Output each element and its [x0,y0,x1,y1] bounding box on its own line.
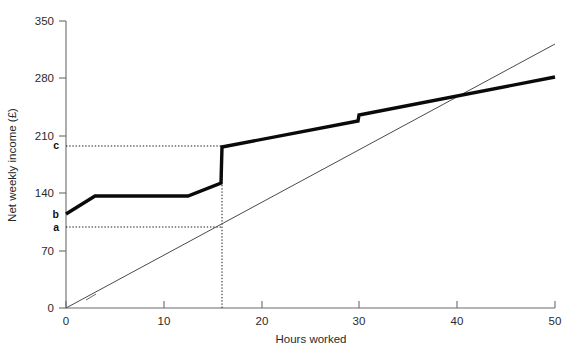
x-axis: 0 10 20 30 40 50 [63,301,562,327]
x-tick-label-20: 20 [256,315,269,327]
gross-earnings-line [66,44,555,308]
y-tick-label-350: 350 [35,15,54,27]
annotation-label-b: b [53,208,59,220]
chart-container: 350 280 210 140 70 0 0 10 20 30 40 50 Ho… [0,0,573,350]
x-tick-label-10: 10 [158,315,171,327]
x-tick-label-0: 0 [63,315,69,327]
y-tick-label-210: 210 [35,130,54,142]
y-tick-label-70: 70 [41,245,54,257]
x-axis-title: Hours worked [276,333,347,345]
net-income-line [66,77,555,214]
y-axis-title: Net weekly income (£) [6,108,18,222]
x-tick-label-50: 50 [549,315,562,327]
annotation-label-a: a [53,221,59,233]
y-tick-label-0: 0 [48,302,54,314]
y-tick-label-280: 280 [35,72,54,84]
income-step-chart: 350 280 210 140 70 0 0 10 20 30 40 50 Ho… [0,0,573,350]
x-tick-label-40: 40 [451,315,464,327]
annotation-label-c: c [53,139,59,151]
y-tick-label-140: 140 [35,187,54,199]
y-axis: 350 280 210 140 70 0 [35,15,66,314]
x-tick-label-30: 30 [353,315,366,327]
guide-lines [66,146,222,308]
